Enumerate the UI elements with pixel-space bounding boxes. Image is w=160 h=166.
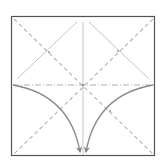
upper-right-point	[117, 50, 119, 52]
center-point	[82, 84, 85, 87]
origami-diagram	[0, 0, 160, 166]
upper-left-point	[48, 51, 50, 53]
lower-right-point	[109, 110, 111, 112]
